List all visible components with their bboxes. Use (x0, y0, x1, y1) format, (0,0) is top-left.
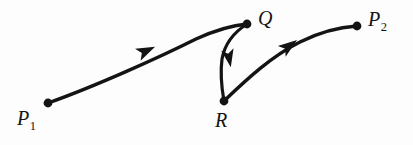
curve-r-to-p2 (224, 26, 357, 101)
point-dot-r (220, 97, 229, 106)
point-label-q-letter: Q (258, 7, 272, 29)
point-dot-p2 (353, 22, 362, 31)
point-label-p1-letter: P (17, 107, 29, 129)
point-label-p2-subscript: 2 (381, 20, 387, 34)
point-label-p1: P1 (17, 108, 35, 128)
point-label-r-letter: R (215, 109, 227, 131)
diagram-canvas (0, 0, 413, 145)
curve-diagram: P1 Q R P2 (0, 0, 413, 145)
point-label-p1-subscript: 1 (30, 119, 36, 133)
point-label-r: R (215, 110, 227, 130)
point-label-p2: P2 (368, 9, 386, 29)
point-label-p2-letter: P (368, 8, 380, 30)
point-dot-q (243, 20, 252, 29)
curve-p1-to-q (48, 24, 247, 103)
point-label-q: Q (258, 8, 272, 28)
point-dot-p1 (44, 99, 53, 108)
